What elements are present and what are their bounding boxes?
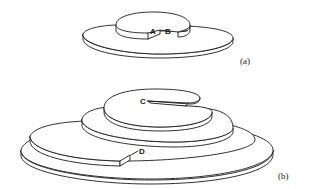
caption-b: (b) (278, 171, 289, 181)
caption-a: (a) (240, 56, 250, 66)
label-b: B (165, 27, 171, 36)
label-a: A (150, 27, 156, 36)
panel-b: C D (b) (21, 89, 289, 184)
label-c: C (140, 97, 146, 106)
panel-a: A B (a) (83, 12, 250, 66)
spiral-disc-diagram: A B (a) C D (b) (0, 0, 310, 189)
panel-b-top-disc-top (104, 89, 212, 127)
label-d: D (139, 147, 145, 156)
